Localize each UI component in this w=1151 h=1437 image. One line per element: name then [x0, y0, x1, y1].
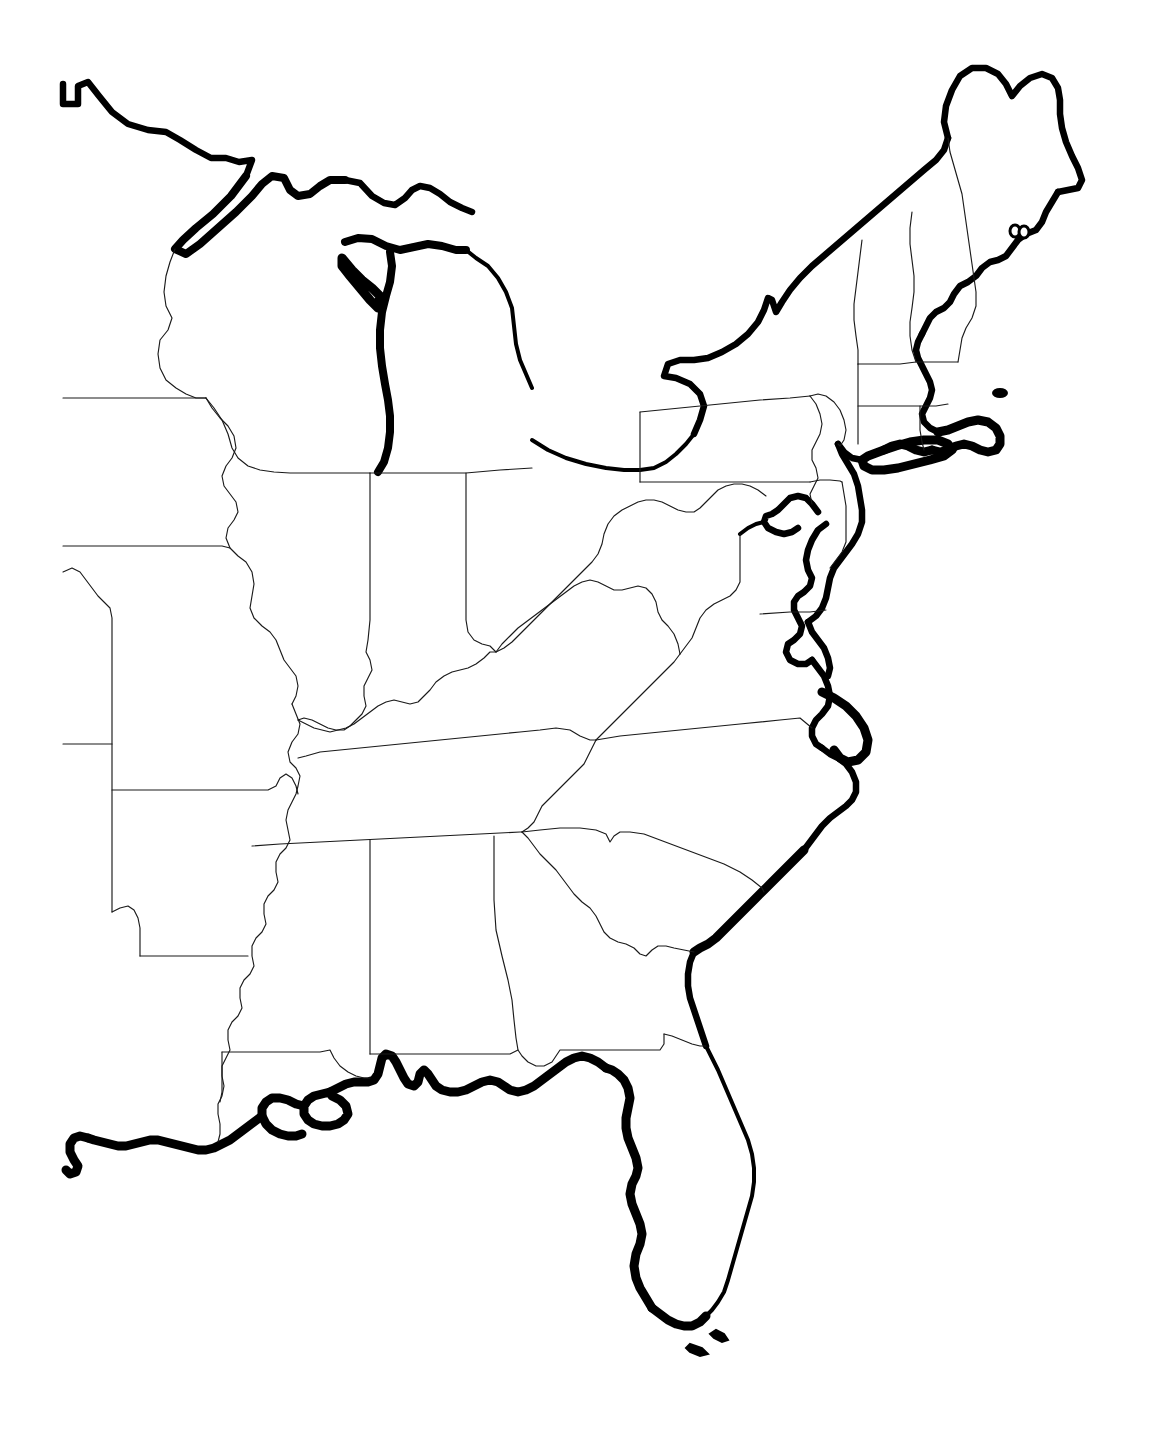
map-page: Eastern United States Outline Map [0, 0, 1151, 1437]
map-background [0, 0, 1151, 1437]
map-canvas [0, 0, 1151, 1437]
penobscot-island-b [1019, 226, 1029, 238]
marthas-vineyard [993, 389, 1007, 397]
